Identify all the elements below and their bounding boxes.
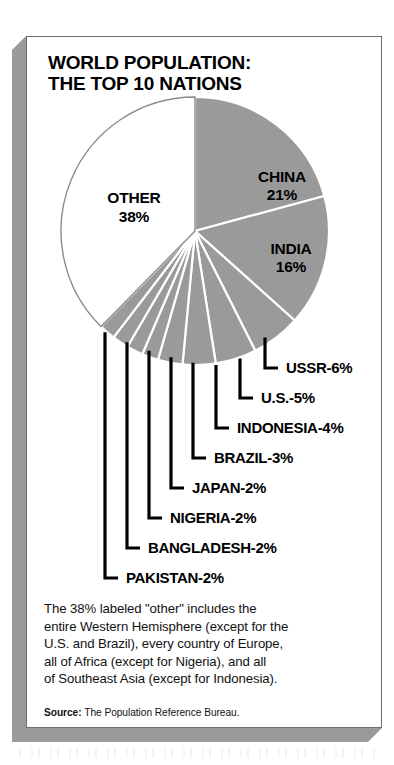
pie-label-india-name: INDIA xyxy=(270,240,311,257)
leader-line-brazil xyxy=(193,363,206,458)
footnote-line-3: U.S. and Brazil), every country of Europ… xyxy=(44,635,364,653)
footnote-line-4: all of Africa (except for Nigeria), and … xyxy=(44,653,364,671)
leader-line-u-s xyxy=(240,359,253,398)
pie-leader-label-nigeria: NIGERIA-2% xyxy=(170,509,256,526)
pie-label-china-value: 21% xyxy=(267,186,298,203)
leader-line-pakistan xyxy=(105,332,118,578)
footnote-line-2: entire Western Hemisphere (except for th… xyxy=(44,618,364,636)
leader-line-indonesia xyxy=(216,365,229,428)
pie-label-india-value: 16% xyxy=(276,258,307,275)
source-text: The Population Reference Bureau. xyxy=(84,707,239,718)
footnote-line-5: of Southeast Asia (except for Indonesia)… xyxy=(44,670,364,688)
source-line: Source: The Population Reference Bureau. xyxy=(44,707,364,718)
pie-leader-label-japan: JAPAN-2% xyxy=(192,479,266,496)
pie-label-other-name: OTHER xyxy=(107,189,160,206)
source-label: Source: xyxy=(44,707,82,718)
pie-leader-label-u-s: U.S.-5% xyxy=(261,389,315,406)
pie-leader-label-indonesia: INDONESIA-4% xyxy=(237,419,343,436)
footnote-line-1: The 38% labeled "other" includes the xyxy=(44,600,364,618)
pie-chart: USSR-6%U.S.-5%INDONESIA-4%BRAZIL-3%JAPAN… xyxy=(26,36,382,596)
pie-leader-label-bangladesh: BANGLADESH-2% xyxy=(148,539,277,556)
leader-line-group: USSR-6%U.S.-5%INDONESIA-4%BRAZIL-3%JAPAN… xyxy=(105,332,352,586)
pie-leader-label-ussr: USSR-6% xyxy=(286,359,352,376)
footnote-text: The 38% labeled "other" includes the ent… xyxy=(44,600,364,688)
leader-line-japan xyxy=(171,357,184,488)
scan-artifact xyxy=(14,748,380,758)
pie-slice-group xyxy=(61,97,329,365)
infographic-panel: WORLD POPULATION: THE TOP 10 NATIONS USS… xyxy=(0,0,394,765)
leader-line-bangladesh xyxy=(127,342,140,548)
pie-label-other-value: 38% xyxy=(119,208,150,225)
pie-label-china-name: CHINA xyxy=(258,168,306,185)
pie-leader-label-pakistan: PAKISTAN-2% xyxy=(126,569,224,586)
pie-leader-label-brazil: BRAZIL-3% xyxy=(214,449,293,466)
leader-line-nigeria xyxy=(149,351,162,518)
